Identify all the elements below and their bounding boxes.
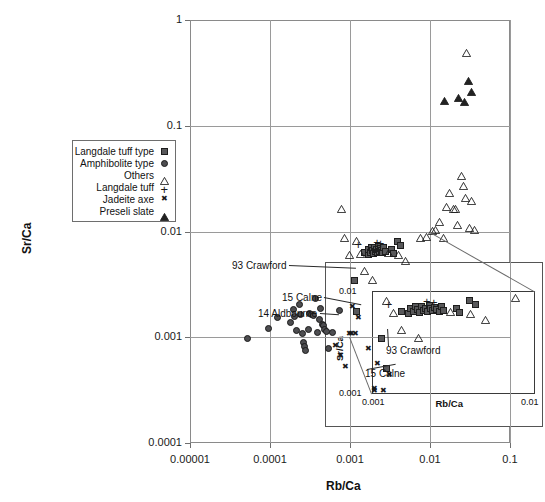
y-tick-label: 0.1: [112, 119, 182, 131]
y-tick-label: 0.0001: [112, 436, 182, 448]
y-tick-mark: [185, 337, 190, 338]
x-tick-label: 0.0001: [225, 453, 315, 465]
legend-key-filled-circle-icon: [159, 158, 169, 168]
x-tick-label: 0.01: [385, 453, 475, 465]
legend-key-plus-icon: +: [159, 182, 169, 192]
legend-key-open-triangle-icon: [159, 170, 169, 180]
annotation-14-aldbourne: 14 Aldbourne: [258, 308, 317, 319]
legend-item-label: Preseli slate: [100, 206, 154, 217]
x-tick-mark: [510, 443, 511, 448]
x-tick-label: 0.1: [465, 453, 545, 465]
legend-item-filled-circle[interactable]: Amphibolite type: [79, 157, 169, 169]
annotation-93-crawford: 93 Crawford: [232, 260, 286, 271]
legend-item-label: Others: [124, 170, 154, 181]
x-tick-label: 0.00001: [145, 453, 235, 465]
legend-key-cross-x-icon: ✖: [159, 194, 169, 204]
legend-item-label: Jadeite axe: [103, 194, 154, 205]
chart-legend: Langdale tuff typeAmphibolite typeOthers…: [72, 140, 176, 222]
x-gridline: [510, 20, 511, 443]
x-tick-mark: [350, 443, 351, 448]
marker-amphibolite-type: [161, 160, 168, 167]
y-tick-label: 0.001: [112, 330, 182, 342]
annotation-15-calne: 15 Calne: [282, 292, 322, 303]
x-tick-mark: [430, 443, 431, 448]
legend-key-filled-square-icon: [159, 146, 169, 156]
legend-item-cross-x[interactable]: Jadeite axe✖: [79, 193, 169, 205]
legend-item-filled-square[interactable]: Langdale tuff type: [79, 145, 169, 157]
y-gridline: [190, 232, 510, 233]
x-tick-label: 0.001: [305, 453, 395, 465]
y-tick-label: 0.01: [112, 225, 182, 237]
x-tick-mark: [190, 443, 191, 448]
y-tick-mark: [185, 232, 190, 233]
marker-jadeite-axe: ✖: [161, 195, 168, 203]
inset-annotation-93-crawford: 93 Crawford: [386, 345, 440, 356]
inset-x-tick-label-left: 0.001: [362, 397, 385, 407]
inset-y-tick-label-lower: 0.001: [339, 388, 362, 398]
y-tick-mark: [185, 20, 190, 21]
y-tick-label: 1: [112, 13, 182, 25]
chart-canvas: Rb/Ca Sr/Ca Langdale tuff typeAmphibolit…: [0, 0, 545, 502]
marker-preseli-slate: [160, 207, 169, 225]
legend-item-label: Langdale tuff: [96, 182, 154, 193]
y-tick-mark: [185, 126, 190, 127]
x-axis-title: Rb/Ca: [326, 479, 361, 493]
legend-key-filled-triangle-icon: [159, 206, 169, 216]
inset-y-axis-title: Sr/Ca: [334, 336, 345, 361]
legend-item-label: Langdale tuff type: [75, 146, 154, 157]
y-gridline: [190, 126, 510, 127]
inset-y-tick-label-upper: 0.01: [339, 286, 357, 296]
legend-item-open-triangle[interactable]: Others: [79, 169, 169, 181]
y-axis-title: Sr/Ca: [20, 222, 34, 253]
legend-item-plus[interactable]: Langdale tuff+: [79, 181, 169, 193]
inset-x-tick-label-right: 0.01: [521, 397, 539, 407]
y-tick-mark: [185, 443, 190, 444]
legend-item-label: Amphibolite type: [80, 158, 154, 169]
inset-x-axis-title: Rb/Ca: [436, 398, 463, 409]
legend-item-filled-triangle[interactable]: Preseli slate: [79, 205, 169, 217]
x-tick-mark: [270, 443, 271, 448]
inset-annotation-15-calne: 15 Calne: [365, 368, 405, 379]
marker-langdale-tuff-type: [161, 148, 168, 155]
